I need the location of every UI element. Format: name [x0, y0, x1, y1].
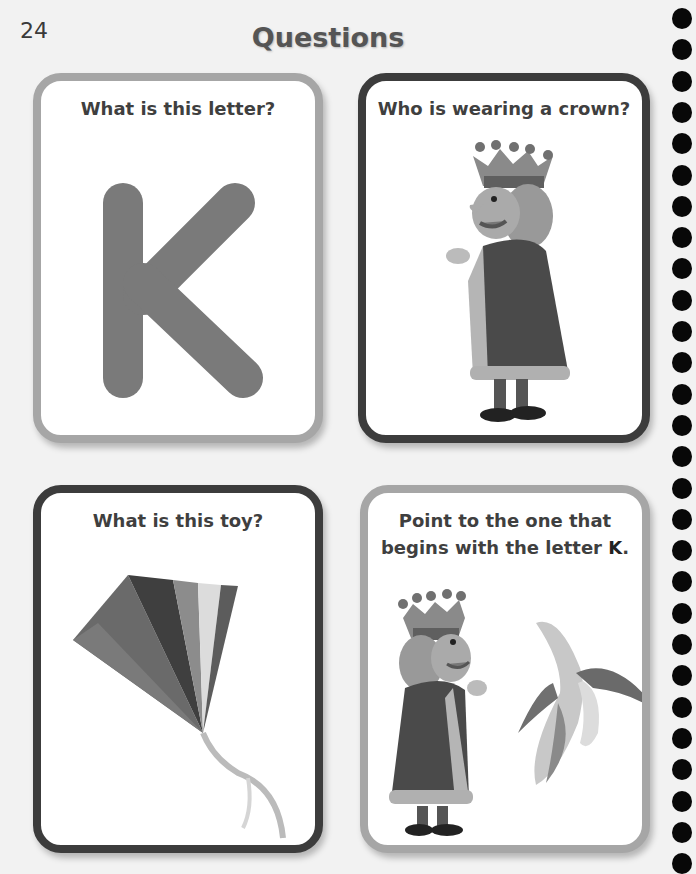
binding-hole — [672, 102, 692, 123]
card-question: Who is wearing a crown? — [366, 95, 642, 122]
binding-hole — [672, 509, 692, 530]
banana-image — [498, 603, 650, 793]
binding-hole — [672, 8, 692, 29]
binding-hole — [672, 759, 692, 780]
binding-hole — [672, 478, 692, 499]
binding-hole — [672, 227, 692, 248]
spiral-binding — [672, 0, 694, 873]
king-image — [373, 578, 513, 838]
binding-hole — [672, 258, 692, 279]
binding-hole — [672, 384, 692, 405]
binding-hole — [672, 634, 692, 655]
emphasized-letter: K — [608, 537, 622, 558]
binding-hole — [672, 446, 692, 467]
card-letter-question: What is this letter? — [33, 73, 323, 443]
binding-hole — [672, 540, 692, 561]
binding-hole — [672, 665, 692, 686]
binding-hole — [672, 352, 692, 373]
binding-hole — [672, 71, 692, 92]
binding-hole — [672, 603, 692, 624]
card-crown-question: Who is wearing a crown? — [358, 73, 650, 443]
binding-hole — [672, 196, 692, 217]
card-question: What is this letter? — [41, 95, 315, 122]
binding-hole — [672, 853, 692, 874]
king-image — [428, 131, 588, 431]
letter-k-image — [93, 173, 293, 413]
binding-hole — [672, 415, 692, 436]
question-line-1: Point to the one that — [399, 510, 611, 531]
binding-hole — [672, 697, 692, 718]
question-end: . — [622, 537, 629, 558]
binding-hole — [672, 133, 692, 154]
binding-hole — [672, 290, 692, 311]
binding-hole — [672, 791, 692, 812]
card-question: Point to the one that begins with the le… — [368, 507, 642, 561]
binding-hole — [672, 571, 692, 592]
card-toy-question: What is this toy? — [33, 485, 323, 853]
binding-hole — [672, 321, 692, 342]
binding-hole — [672, 39, 692, 60]
binding-hole — [672, 822, 692, 843]
page-title: Questions — [0, 22, 656, 53]
binding-hole — [672, 728, 692, 749]
binding-hole — [672, 165, 692, 186]
question-line-2: begins with the letter — [381, 537, 608, 558]
card-question: What is this toy? — [41, 507, 315, 534]
kite-image — [63, 568, 303, 848]
card-letter-k-question: Point to the one that begins with the le… — [360, 485, 650, 853]
